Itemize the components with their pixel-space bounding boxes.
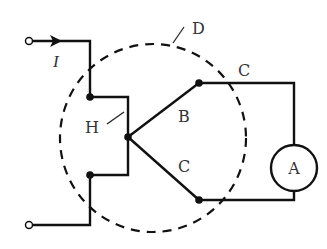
leader-d bbox=[173, 27, 184, 43]
ammeter: A bbox=[271, 145, 317, 191]
label-junction: H bbox=[85, 118, 99, 137]
input-wire-bottom bbox=[32, 137, 128, 225]
wire-c-lower bbox=[199, 191, 294, 200]
dashed-region-boundary bbox=[60, 44, 246, 232]
leader-h bbox=[107, 112, 124, 124]
label-wire-c-lower: C bbox=[178, 157, 190, 176]
node-dot-upper-left bbox=[86, 93, 94, 101]
terminal-top bbox=[26, 38, 33, 45]
label-current: I bbox=[52, 52, 60, 71]
terminal-bottom bbox=[26, 222, 33, 229]
label-wire-c-upper: C bbox=[238, 61, 250, 80]
node-dot-junction-h bbox=[124, 133, 132, 141]
label-branch-b: B bbox=[178, 107, 190, 126]
ammeter-label: A bbox=[287, 159, 300, 178]
node-dot-lower-left bbox=[86, 171, 94, 179]
node-dot-c-end bbox=[195, 196, 203, 204]
input-wire-top bbox=[32, 35, 128, 137]
circuit-diagram: A I D H B C C bbox=[0, 0, 327, 249]
label-region: D bbox=[192, 19, 205, 38]
node-dot-b-end bbox=[195, 79, 203, 87]
